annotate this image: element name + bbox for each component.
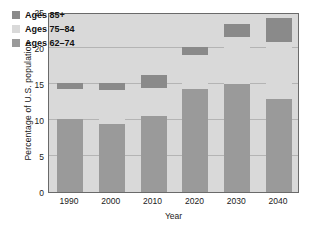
bar-segment: [99, 124, 125, 192]
bar-segment: [224, 84, 250, 192]
bar: [182, 47, 208, 192]
legend-item-label: Ages 85+: [25, 10, 65, 20]
bar-segment: [182, 89, 208, 192]
bar-segment: [224, 37, 250, 84]
bar-segment: [57, 89, 83, 119]
legend-item: Ages 75–84: [12, 22, 75, 36]
x-tick-label: 2010: [143, 196, 162, 206]
x-tick-label: 1990: [59, 196, 78, 206]
bar-segment: [266, 99, 292, 192]
bar-segment: [182, 55, 208, 89]
bar: [224, 24, 250, 192]
x-axis-title: Year: [48, 211, 299, 221]
legend: Ages 85+Ages 75–84Ages 62–74: [10, 6, 79, 52]
x-tick-label: 2000: [101, 196, 120, 206]
bar-segment: [141, 116, 167, 192]
bar-segment: [224, 24, 250, 38]
bar: [99, 83, 125, 192]
legend-item: Ages 85+: [12, 8, 75, 22]
bar: [141, 75, 167, 192]
x-axis-tick-labels: 199020002010202020302040: [48, 196, 299, 210]
bar: [57, 83, 83, 192]
legend-item: Ages 62–74: [12, 36, 75, 50]
bar-segment: [99, 91, 125, 124]
bar-segment: [57, 83, 83, 89]
y-tick-label: 15: [22, 80, 44, 90]
y-tick-label: 10: [22, 116, 44, 126]
bar-segment: [57, 119, 83, 192]
bar-segment: [99, 83, 125, 90]
bar-group: [49, 14, 298, 192]
legend-swatch-icon: [12, 25, 20, 33]
bar: [266, 18, 292, 192]
y-tick-label: 0: [22, 188, 44, 198]
legend-item-label: Ages 62–74: [25, 38, 75, 48]
y-tick-label: 5: [22, 152, 44, 162]
bar-segment: [141, 88, 167, 116]
bar-segment: [182, 47, 208, 55]
bar-chart-figure: Percentage of U.S. population 0510152025…: [0, 0, 309, 242]
bar-segment: [141, 75, 167, 89]
legend-swatch-icon: [12, 11, 20, 19]
x-tick-label: 2030: [227, 196, 246, 206]
x-tick-label: 2020: [185, 196, 204, 206]
bar-segment: [266, 18, 292, 42]
bar-segment: [266, 42, 292, 99]
x-tick-label: 2040: [269, 196, 288, 206]
legend-item-label: Ages 75–84: [25, 24, 75, 34]
legend-swatch-icon: [12, 39, 20, 47]
plot-area: [48, 13, 299, 193]
